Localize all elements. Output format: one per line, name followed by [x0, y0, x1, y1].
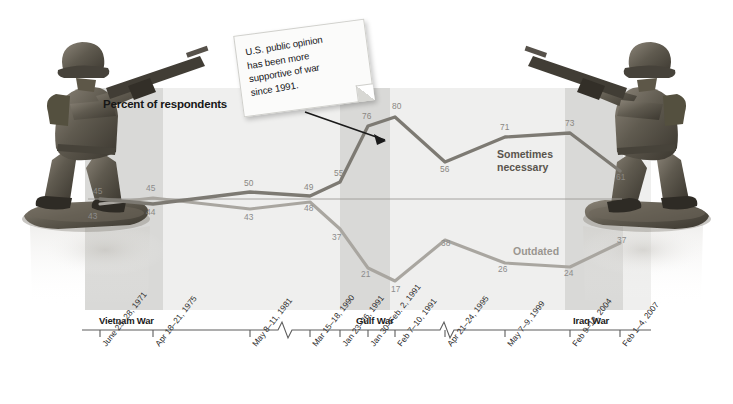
value-label: 71 [500, 122, 509, 132]
value-label: 61 [616, 172, 625, 182]
value-label: 80 [392, 101, 401, 111]
value-label: 73 [565, 118, 574, 128]
value-label: 49 [304, 182, 313, 192]
value-label: 37 [332, 232, 341, 242]
series-label-line2: necessary [497, 161, 548, 173]
value-label: 45 [146, 183, 155, 193]
callout-fold-corner [356, 83, 375, 102]
series-label-outdated: Outdated [513, 245, 559, 258]
value-label: 48 [304, 203, 313, 213]
value-label: 43 [244, 212, 253, 222]
series-label-line1: Sometimes [497, 148, 553, 160]
value-label: 76 [362, 111, 371, 121]
value-label: 21 [361, 269, 370, 279]
value-label: 44 [146, 207, 155, 217]
page-title: Percent of respondents [103, 98, 227, 110]
value-label: 37 [617, 235, 626, 245]
annotation-callout: U.S. public opinion has been more suppor… [233, 19, 375, 118]
value-label: 55 [334, 168, 343, 178]
value-label: 50 [244, 178, 253, 188]
value-label: 45 [93, 186, 102, 196]
value-label: 43 [88, 211, 97, 221]
value-label: 26 [498, 264, 507, 274]
value-label: 38 [441, 238, 450, 248]
chart-figure: Percent of respondents Vietnam War Gulf … [0, 0, 733, 404]
value-label: 24 [564, 268, 573, 278]
value-label: 17 [391, 284, 400, 294]
series-label-sometimes-necessary: Sometimes necessary [497, 148, 553, 174]
value-label: 56 [440, 164, 449, 174]
series-line-outdated [100, 198, 620, 281]
